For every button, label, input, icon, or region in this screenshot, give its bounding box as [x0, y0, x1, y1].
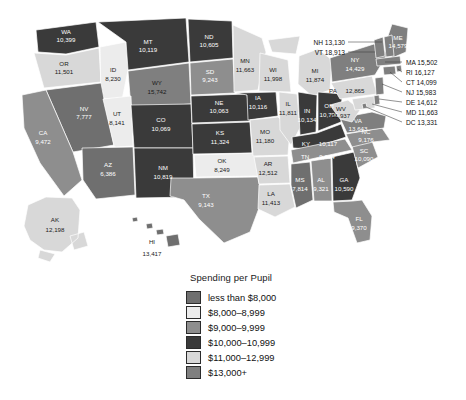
label-UT-value: 8,141 — [109, 119, 125, 126]
label-WI-value: 11,998 — [264, 75, 283, 82]
callout-VT: VT 18,913 — [315, 49, 346, 56]
label-MI-abbr: MI — [312, 67, 319, 74]
label-FL-abbr: FL — [355, 215, 363, 222]
legend-label-10000-10999: $10,000–10,999 — [208, 338, 275, 348]
label-VA-value: 13,643 — [349, 125, 368, 132]
label-TX-abbr: TX — [202, 192, 210, 199]
label-ME-value: 14,579 — [389, 42, 408, 49]
label-IA-value: 10,116 — [249, 103, 268, 110]
legend-swatch-8000-8999 — [186, 306, 201, 319]
label-IA-abbr: IA — [255, 94, 262, 101]
label-HI-abbr: HI — [149, 238, 155, 245]
label-SC-abbr: SC — [360, 147, 369, 154]
label-LA-abbr: LA — [267, 190, 275, 197]
state-HI[interactable] — [132, 217, 180, 247]
label-TN-abbr: TN — [301, 153, 309, 160]
label-HI-value: 13,417 — [143, 250, 162, 257]
label-SD-abbr: SD — [206, 68, 215, 75]
label-ND-value: 10,605 — [200, 41, 219, 48]
label-OH-abbr: OH — [324, 102, 333, 109]
label-AZ-abbr: AZ — [104, 161, 112, 168]
legend-item-5[interactable]: $13,000+ — [186, 365, 336, 380]
legend-swatch-under-8000 — [186, 291, 201, 304]
label-NM-value: 10,819 — [154, 173, 173, 180]
state-DC[interactable] — [362, 103, 367, 109]
label-WV-value: 11,937 — [332, 112, 351, 119]
label-NE-value: 10,063 — [210, 107, 229, 114]
label-MS-value: 7,814 — [292, 185, 308, 192]
label-OR-value: 11,501 — [55, 68, 74, 75]
label-KS-abbr: KS — [216, 129, 224, 136]
label-KS-value: 11,324 — [211, 138, 230, 145]
legend-item-0[interactable]: less than $8,000 — [186, 290, 336, 305]
label-WA-abbr: WA — [61, 28, 72, 35]
legend-label-8000-8999: $8,000–8,999 — [208, 308, 265, 318]
label-GA-value: 10,590 — [335, 185, 354, 192]
label-AL-abbr: AL — [317, 176, 325, 183]
legend-label-under-8000: less than $8,000 — [208, 293, 276, 303]
legend-swatch-10000-10999 — [186, 336, 201, 349]
state-FL[interactable] — [333, 200, 372, 243]
label-OK-abbr: OK — [218, 157, 228, 164]
legend-item-4[interactable]: $11,000–12,999 — [186, 350, 336, 365]
state-NJ[interactable] — [375, 77, 384, 95]
label-OR-abbr: OR — [59, 60, 69, 67]
label-IL-abbr: IL — [285, 100, 291, 107]
label-KY-abbr: KY — [302, 140, 310, 147]
callout-CT: CT 14,099 — [406, 79, 437, 86]
legend-swatch-11000-12999 — [186, 351, 201, 364]
label-SD-value: 9,243 — [202, 76, 218, 83]
label-AZ-value: 6,386 — [100, 170, 116, 177]
map-legend: Spending per Pupil less than $8,000 $8,0… — [186, 272, 336, 380]
label-FL-value: 9,370 — [351, 224, 367, 231]
callout-DC: DC 13,331 — [406, 119, 438, 126]
label-MN-value: 11,663 — [236, 66, 255, 73]
label-TX-value: 9,143 — [198, 201, 214, 208]
label-MT-abbr: MT — [144, 38, 153, 45]
legend-swatch-13000-plus — [186, 366, 201, 379]
label-AR-value: 12,512 — [259, 169, 278, 176]
callout-MA: MA 15,502 — [406, 59, 438, 66]
label-CA-abbr: CA — [39, 129, 48, 136]
callout-DE: DE 14,612 — [406, 99, 437, 106]
label-MN-abbr: MN — [240, 57, 250, 64]
label-AL-value: 9,321 — [313, 185, 329, 192]
label-AR-abbr: AR — [264, 160, 273, 167]
legend-item-2[interactable]: $9,000–9,999 — [186, 320, 336, 335]
label-NY-value: 14,429 — [346, 65, 365, 72]
label-PA-value: 12,865 — [346, 87, 365, 94]
label-KY-value: 10,117 — [319, 140, 338, 147]
label-MI-value: 11,874 — [306, 76, 325, 83]
label-CA-value: 9,472 — [35, 138, 51, 145]
callout-NH: NH 13,130 — [313, 39, 345, 46]
state-TX[interactable] — [170, 177, 262, 243]
label-NC-value: 9,176 — [358, 136, 374, 143]
label-OK-value: 8,249 — [214, 166, 230, 173]
label-MT-value: 10,119 — [139, 46, 158, 53]
label-GA-abbr: GA — [340, 176, 350, 183]
state-RI[interactable] — [396, 65, 402, 72]
legend-swatch-9000-9999 — [186, 321, 201, 334]
legend-label-9000-9999: $9,000–9,999 — [208, 323, 265, 333]
state-CT[interactable] — [383, 66, 396, 75]
callout-NJ: NJ 15,983 — [406, 89, 436, 96]
legend-label-11000-12999: $11,000–12,999 — [208, 353, 275, 363]
legend-title: Spending per Pupil — [190, 272, 336, 283]
label-WV-abbr: WV — [336, 105, 347, 112]
callout-RI: RI 16,127 — [406, 69, 435, 76]
label-NV-value: 7,777 — [76, 113, 92, 120]
legend-item-1[interactable]: $8,000–8,999 — [186, 305, 336, 320]
legend-item-3[interactable]: $10,000–10,999 — [186, 335, 336, 350]
label-WY-value: 15,742 — [148, 88, 167, 95]
label-NE-abbr: NE — [215, 99, 224, 106]
state-VT[interactable] — [374, 37, 385, 58]
label-ND-abbr: ND — [205, 33, 214, 40]
label-MO-abbr: MO — [260, 128, 270, 135]
label-IN-abbr: IN — [304, 107, 310, 114]
label-ID-value: 8,230 — [105, 75, 121, 82]
label-CO-value: 10,069 — [152, 125, 171, 132]
label-NV-abbr: NV — [80, 105, 89, 112]
label-VA-abbr: VA — [354, 117, 363, 124]
label-PA-abbr: PA — [329, 87, 338, 94]
label-NY-abbr: NY — [351, 56, 360, 63]
